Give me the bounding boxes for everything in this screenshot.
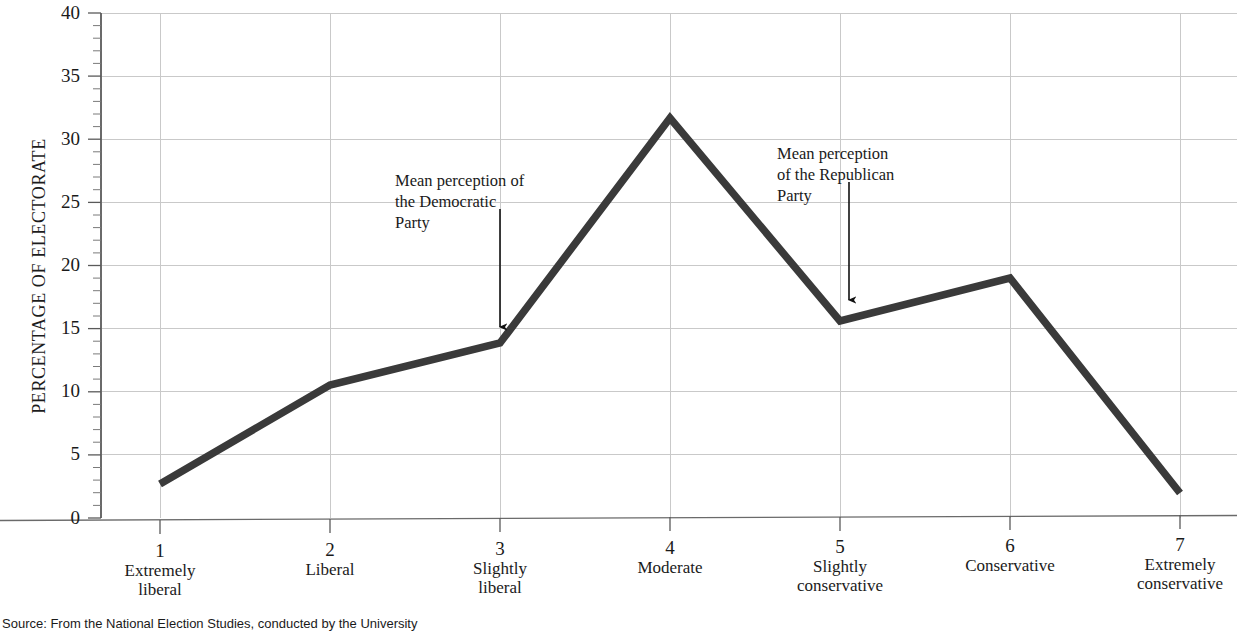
x-tick-3-label: Slightly liberal	[410, 559, 590, 597]
x-tick-7-number: 7	[1090, 534, 1237, 555]
y-tick-label-20: 20	[34, 254, 80, 276]
x-tick-7: 7 Extremely conservative	[1090, 534, 1237, 593]
y-tick-label-30: 30	[34, 128, 80, 150]
chart-figure: PERCENTAGE OF ELECTORATE 40 35 30 25 20 …	[0, 0, 1237, 631]
y-tick-label-40: 40	[34, 2, 80, 24]
x-tick-3-number: 3	[410, 538, 590, 559]
x-tick-5-label: Slightly conservative	[750, 557, 930, 595]
x-axis-ticks	[160, 515, 1180, 534]
gridlines-horizontal	[101, 13, 1237, 455]
x-tick-4: 4 Moderate	[580, 537, 760, 577]
x-tick-4-label: Moderate	[580, 558, 760, 577]
republican-annotation-text: Mean perception of the Republican Party	[777, 143, 977, 206]
x-tick-5: 5 Slightly conservative	[750, 536, 930, 595]
source-note: Source: From the National Election Studi…	[2, 616, 1237, 631]
x-tick-2-label: Liberal	[240, 560, 420, 579]
x-tick-1-label: Extremely liberal	[70, 561, 250, 599]
y-tick-label-15: 15	[34, 317, 80, 339]
y-tick-label-35: 35	[34, 65, 80, 87]
x-tick-1: 1 Extremely liberal	[70, 540, 250, 599]
x-tick-2: 2 Liberal	[240, 539, 420, 579]
x-axis-spine	[0, 516, 1237, 521]
x-tick-2-number: 2	[240, 539, 420, 560]
y-tick-label-5: 5	[34, 443, 80, 465]
x-tick-5-number: 5	[750, 536, 930, 557]
x-tick-6-label: Conservative	[920, 556, 1100, 575]
y-tick-label-10: 10	[34, 380, 80, 402]
x-tick-7-label: Extremely conservative	[1090, 555, 1237, 593]
x-tick-6-number: 6	[920, 535, 1100, 556]
x-tick-3: 3 Slightly liberal	[410, 538, 590, 597]
x-tick-4-number: 4	[580, 537, 760, 558]
x-tick-1-number: 1	[70, 540, 250, 561]
y-tick-label-25: 25	[34, 191, 80, 213]
y-tick-label-0: 0	[34, 507, 80, 529]
x-tick-6: 6 Conservative	[920, 535, 1100, 575]
democratic-annotation-text: Mean perception of the Democratic Party	[395, 170, 595, 233]
